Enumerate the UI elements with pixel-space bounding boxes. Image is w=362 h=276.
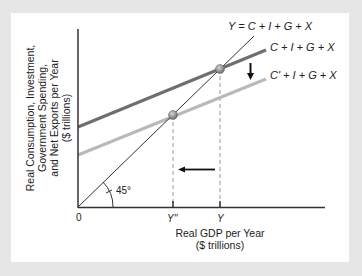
x-axis-label-line-1: Real GDP per Year xyxy=(140,227,300,239)
x-axis-label: Real GDP per Year ($ trillions) xyxy=(140,227,300,251)
origin-label: 0 xyxy=(76,212,82,223)
y-axis-label-line-3: and Net Exports per Year xyxy=(48,18,60,218)
angle-arc xyxy=(103,182,113,207)
tick-label-y: Y xyxy=(217,213,224,224)
shifted-expenditure-line-label: C' + I + G + X xyxy=(270,69,337,81)
original-equilibrium-point xyxy=(216,65,225,74)
y-axis-label-line-1: Real Consumption, Investment, xyxy=(24,18,36,218)
y-axis-label-line-2: Government Spending, xyxy=(36,18,48,218)
tick-label-y-double-prime: Y'' xyxy=(167,213,178,224)
gdp-decrease-arrow xyxy=(178,167,215,173)
y-axis-label: Real Consumption, Investment, Government… xyxy=(24,18,72,218)
new-equilibrium-point xyxy=(169,111,178,120)
downward-shift-arrow xyxy=(247,63,254,80)
forty-five-degree-line xyxy=(78,36,254,207)
y-axis-label-line-4: ($ trillions) xyxy=(60,18,72,218)
angle-label: 45° xyxy=(116,185,131,196)
original-expenditure-line-label: C + I + G + X xyxy=(270,41,335,53)
x-axis-label-line-2: ($ trillions) xyxy=(140,239,300,251)
forty-five-degree-line-label: Y = C + I + G + X xyxy=(228,20,312,32)
